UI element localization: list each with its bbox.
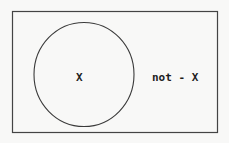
set-x-circle (34, 23, 134, 127)
set-x-label: X (76, 72, 83, 84)
complement-label: not - X (152, 72, 198, 84)
venn-diagram: X not - X (0, 0, 229, 143)
